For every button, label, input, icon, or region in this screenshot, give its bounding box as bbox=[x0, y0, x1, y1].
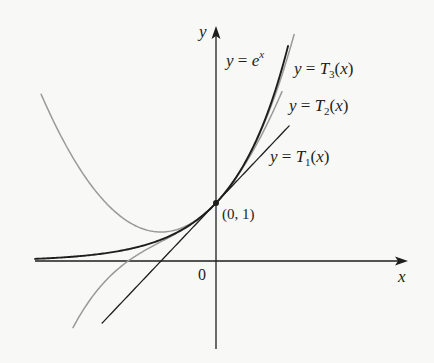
point-0-1-marker bbox=[213, 200, 219, 206]
label-t2-close: ) bbox=[343, 96, 349, 115]
curves bbox=[35, 34, 294, 327]
label-t1: y = T1(x) bbox=[270, 148, 330, 168]
curve-y-t1-x bbox=[102, 126, 289, 323]
curve-y-t3-x bbox=[73, 34, 294, 327]
label-t2-fn: T bbox=[315, 96, 324, 115]
label-t1-fn: T bbox=[296, 147, 305, 166]
y-axis-label: y bbox=[199, 23, 207, 40]
label-exp-exponent: x bbox=[259, 48, 264, 60]
label-t2-eq: = bbox=[297, 96, 315, 115]
label-exp-lhs: y bbox=[226, 51, 234, 70]
plot-area bbox=[0, 0, 434, 363]
label-t2-var: x bbox=[335, 96, 343, 115]
label-t2-lhs: y bbox=[289, 96, 297, 115]
label-t1-eq: = bbox=[278, 147, 296, 166]
label-t3: y = T3(x) bbox=[294, 60, 354, 80]
label-t3-eq: = bbox=[302, 59, 320, 78]
label-t3-lhs: y bbox=[294, 59, 302, 78]
label-t3-close: ) bbox=[348, 59, 354, 78]
label-t3-fn: T bbox=[320, 59, 329, 78]
label-exp-eq: = bbox=[234, 51, 252, 70]
origin-label: 0 bbox=[198, 267, 206, 283]
curve-y-e-x bbox=[35, 46, 288, 259]
label-t1-close: ) bbox=[324, 147, 330, 166]
label-exp: y = ex bbox=[226, 49, 264, 69]
label-t1-lhs: y bbox=[270, 147, 278, 166]
label-t1-var: x bbox=[316, 147, 324, 166]
taylor-polynomial-figure: y x 0 (0, 1) y = ex y = T3(x) y = T2(x) … bbox=[0, 0, 434, 363]
label-t3-var: x bbox=[340, 59, 348, 78]
x-axis-label: x bbox=[398, 268, 406, 285]
label-t2: y = T2(x) bbox=[289, 97, 349, 117]
point-label: (0, 1) bbox=[222, 207, 255, 222]
